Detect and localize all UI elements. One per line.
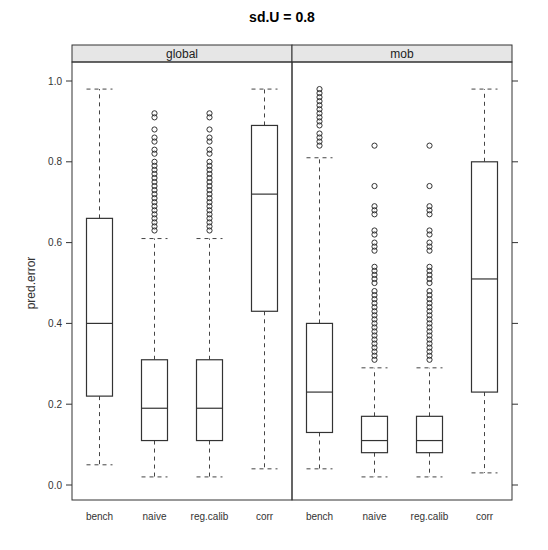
- plot-area: globalbenchnaivereg.calibcorrmobbenchnai…: [48, 45, 518, 522]
- box-corr: [252, 89, 278, 469]
- boxplot-chart: sd.U = 0.8 pred.error globalbenchnaivere…: [0, 0, 548, 550]
- y-tick-label: 0.4: [48, 318, 62, 329]
- y-tick-label: 1.0: [48, 76, 62, 87]
- x-tick-label: bench: [86, 511, 113, 522]
- x-tick-label: naive: [143, 511, 167, 522]
- outlier-point: [427, 183, 432, 188]
- x-tick-label: corr: [256, 511, 274, 522]
- strip-label: mob: [390, 47, 414, 61]
- box-body: [142, 360, 168, 441]
- box-body: [87, 218, 113, 396]
- outlier-point: [207, 127, 212, 132]
- x-tick-label: naive: [363, 511, 387, 522]
- box-body: [362, 416, 388, 452]
- box-body: [197, 360, 223, 441]
- outlier-point: [372, 143, 377, 148]
- box-reg.calib: [197, 111, 223, 477]
- box-bench: [307, 86, 333, 468]
- y-axis-label: pred.error: [24, 257, 38, 310]
- outlier-point: [152, 127, 157, 132]
- x-tick-label: corr: [476, 511, 494, 522]
- y-tick-label: 0.8: [48, 156, 62, 167]
- y-tick-label: 0.2: [48, 399, 62, 410]
- chart-title: sd.U = 0.8: [249, 9, 315, 25]
- box-naive: [142, 111, 168, 477]
- box-naive: [362, 143, 388, 477]
- y-tick-label: 0.0: [48, 480, 62, 491]
- box-body: [472, 162, 498, 392]
- box-body: [417, 416, 443, 452]
- box-reg.calib: [417, 143, 443, 477]
- box-body: [252, 125, 278, 311]
- x-tick-label: bench: [306, 511, 333, 522]
- outlier-point: [372, 183, 377, 188]
- strip-label: global: [166, 47, 198, 61]
- y-tick-label: 0.6: [48, 237, 62, 248]
- x-tick-label: reg.calib: [411, 511, 449, 522]
- box-body: [307, 323, 333, 432]
- panel-mob: mobbenchnaivereg.calibcorr: [292, 45, 512, 522]
- box-bench: [87, 89, 113, 465]
- x-tick-label: reg.calib: [191, 511, 229, 522]
- panel-global: globalbenchnaivereg.calibcorr: [72, 45, 292, 522]
- outlier-point: [427, 143, 432, 148]
- box-corr: [472, 89, 498, 473]
